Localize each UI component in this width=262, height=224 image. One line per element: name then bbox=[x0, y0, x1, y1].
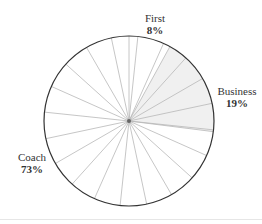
label-coach: Coach 73% bbox=[10, 151, 54, 175]
highlighted-wedge bbox=[129, 47, 214, 132]
label-business: Business 19% bbox=[212, 85, 262, 109]
spoke-line bbox=[51, 86, 129, 121]
wedge-business bbox=[129, 47, 214, 132]
spoke-line bbox=[120, 121, 129, 206]
label-business-pct: 19% bbox=[212, 97, 262, 109]
spoke-line bbox=[46, 121, 129, 139]
spoke-line bbox=[72, 121, 129, 184]
spoke-line bbox=[111, 38, 129, 121]
label-business-name: Business bbox=[217, 85, 256, 97]
spoke-line bbox=[44, 112, 129, 121]
label-first-pct: 8% bbox=[140, 24, 170, 36]
center-dot bbox=[127, 119, 131, 123]
spoke-line bbox=[129, 121, 172, 195]
spoke-line bbox=[66, 64, 129, 121]
spoke-line bbox=[129, 121, 192, 178]
spoke-line bbox=[129, 121, 147, 204]
divider bbox=[0, 219, 262, 220]
spoke-line bbox=[55, 121, 129, 164]
pie-chart bbox=[0, 0, 262, 224]
spoke-line bbox=[94, 121, 129, 199]
label-first: First 8% bbox=[140, 12, 170, 36]
label-coach-pct: 73% bbox=[10, 163, 54, 175]
label-first-name: First bbox=[145, 12, 165, 24]
label-coach-name: Coach bbox=[18, 151, 46, 163]
spoke-line bbox=[87, 47, 130, 121]
